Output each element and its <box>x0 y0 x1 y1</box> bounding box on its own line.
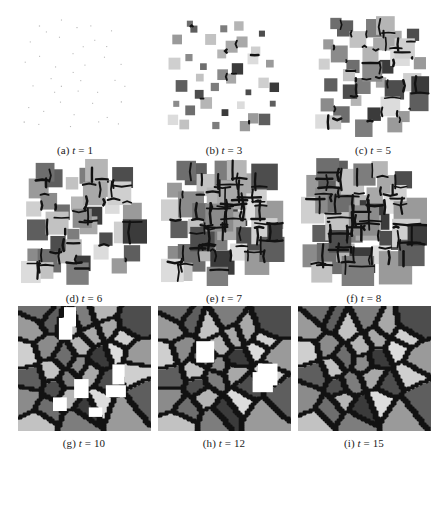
panel-e-image <box>161 158 287 286</box>
panel-e: (e) t = 7 <box>154 158 294 304</box>
panel-c-caption: (c) t = 5 <box>355 144 391 156</box>
panel-b-image <box>164 12 284 137</box>
panel-c: (c) t = 5 <box>299 12 448 156</box>
figure-row-top: (a) t = 1 (b) t = 3 (c) t = 5 <box>0 12 448 156</box>
panel-a-caption: (a) t = 1 <box>57 144 93 156</box>
panel-h: (h) t = 12 <box>154 306 294 449</box>
panel-a-image <box>15 12 135 137</box>
panel-i-caption: (i) t = 15 <box>344 437 384 449</box>
panel-g-caption: (g) t = 10 <box>63 437 105 449</box>
panel-f-caption: (f) t = 8 <box>347 292 382 304</box>
panel-e-caption: (e) t = 7 <box>206 292 242 304</box>
figure-container: (a) t = 1 (b) t = 3 (c) t = 5 (d) t = 6 … <box>0 0 448 507</box>
panel-g-image <box>18 306 151 431</box>
panel-a: (a) t = 1 <box>1 12 150 156</box>
panel-h-image <box>158 306 291 431</box>
panel-b: (b) t = 3 <box>150 12 299 156</box>
panel-d: (d) t = 6 <box>14 158 154 304</box>
panel-f: (f) t = 8 <box>294 158 434 304</box>
panel-d-caption: (d) t = 6 <box>66 292 103 304</box>
panel-h-caption: (h) t = 12 <box>203 437 245 449</box>
panel-g: (g) t = 10 <box>14 306 154 449</box>
panel-b-caption: (b) t = 3 <box>206 144 243 156</box>
panel-f-image <box>301 158 427 286</box>
panel-i: (i) t = 15 <box>294 306 434 449</box>
panel-c-image <box>313 12 433 137</box>
figure-row-middle: (d) t = 6 (e) t = 7 (f) t = 8 <box>0 158 448 304</box>
panel-d-image <box>21 158 147 286</box>
panel-i-image <box>298 306 431 431</box>
figure-row-bottom: (g) t = 10 (h) t = 12 (i) t = 15 <box>0 306 448 449</box>
